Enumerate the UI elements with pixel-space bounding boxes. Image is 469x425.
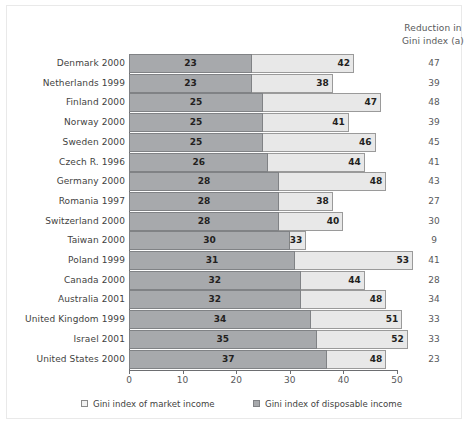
legend-label: Gini index of disposable income bbox=[265, 399, 402, 409]
category-label: Czech R. 1996 bbox=[13, 153, 125, 172]
bar-value-disposable: 25 bbox=[129, 93, 263, 112]
plot-area: 2342233825472541254626442848283828403033… bbox=[129, 54, 397, 370]
bar-value-disposable: 25 bbox=[129, 113, 263, 132]
bar-value-disposable: 28 bbox=[129, 192, 279, 211]
bar-value-disposable: 34 bbox=[129, 310, 311, 329]
category-label: Romania 1997 bbox=[13, 192, 125, 211]
category-label: Denmark 2000 bbox=[13, 54, 125, 73]
reduction-value: 41 bbox=[397, 153, 469, 172]
category-label: Norway 2000 bbox=[13, 113, 125, 132]
legend-swatch-light bbox=[81, 400, 88, 407]
chart-legend: Gini index of market incomeGini index of… bbox=[81, 397, 421, 413]
reduction-value: 41 bbox=[397, 251, 469, 270]
x-tick-mark bbox=[397, 370, 398, 374]
reduction-value: 45 bbox=[397, 133, 469, 152]
category-label: Finland 2000 bbox=[13, 93, 125, 112]
legend-item[interactable]: Gini index of market income bbox=[81, 397, 215, 411]
bar-value-market: 33 bbox=[290, 231, 306, 250]
bar-value-disposable: 32 bbox=[129, 271, 301, 290]
reduction-header-line-1: Reduction in bbox=[395, 22, 469, 35]
bar-value-market: 48 bbox=[327, 350, 386, 369]
category-label: United States 2000 bbox=[13, 350, 125, 369]
bar-value-disposable: 30 bbox=[129, 231, 290, 250]
category-label: Israel 2001 bbox=[13, 330, 125, 349]
bar-value-disposable: 23 bbox=[129, 74, 252, 93]
reduction-value: 48 bbox=[397, 93, 469, 112]
reduction-value: 34 bbox=[397, 290, 469, 309]
category-label: Canada 2000 bbox=[13, 271, 125, 290]
reduction-value: 23 bbox=[397, 350, 469, 369]
x-tick-label: 20 bbox=[224, 375, 248, 385]
reduction-value: 30 bbox=[397, 212, 469, 231]
legend-label: Gini index of market income bbox=[93, 399, 215, 409]
reduction-value: 28 bbox=[397, 271, 469, 290]
bar-value-disposable: 23 bbox=[129, 54, 252, 73]
bar-value-market: 40 bbox=[279, 212, 343, 231]
reduction-value: 39 bbox=[397, 74, 469, 93]
category-label: Switzerland 2000 bbox=[13, 212, 125, 231]
reduction-value: 33 bbox=[397, 310, 469, 329]
reduction-column-header: Reduction in Gini index (a) bbox=[395, 22, 469, 47]
x-tick-mark bbox=[129, 370, 130, 374]
legend-item[interactable]: Gini index of disposable income bbox=[253, 397, 402, 411]
bar-value-market: 53 bbox=[295, 251, 413, 270]
bar-value-market: 44 bbox=[268, 153, 364, 172]
x-tick-label: 10 bbox=[171, 375, 195, 385]
bar-value-market: 48 bbox=[279, 172, 386, 191]
category-label: Sweden 2000 bbox=[13, 133, 125, 152]
reduction-value: 47 bbox=[397, 54, 469, 73]
x-tick-label: 40 bbox=[331, 375, 355, 385]
x-tick-mark bbox=[290, 370, 291, 374]
x-tick-mark bbox=[236, 370, 237, 374]
reduction-header-line-2: Gini index (a) bbox=[395, 35, 469, 48]
reduction-value: 39 bbox=[397, 113, 469, 132]
bar-value-disposable: 26 bbox=[129, 153, 268, 172]
bar-value-market: 42 bbox=[252, 54, 354, 73]
x-tick-label: 30 bbox=[278, 375, 302, 385]
bar-value-disposable: 28 bbox=[129, 212, 279, 231]
bar-value-market: 46 bbox=[263, 133, 376, 152]
bar-value-disposable: 32 bbox=[129, 290, 301, 309]
x-tick-label: 50 bbox=[385, 375, 409, 385]
bar-value-market: 52 bbox=[317, 330, 408, 349]
category-label: United Kingdom 1999 bbox=[13, 310, 125, 329]
category-label-column: Denmark 2000Netherlands 1999Finland 2000… bbox=[11, 54, 125, 370]
category-label: Poland 1999 bbox=[13, 251, 125, 270]
x-tick-mark bbox=[183, 370, 184, 374]
chart-frame: Reduction in Gini index (a) Denmark 2000… bbox=[6, 5, 462, 419]
category-label: Taiwan 2000 bbox=[13, 231, 125, 250]
bar-value-disposable: 37 bbox=[129, 350, 327, 369]
reduction-value: 27 bbox=[397, 192, 469, 211]
bar-value-market: 44 bbox=[301, 271, 365, 290]
reduction-value: 33 bbox=[397, 330, 469, 349]
x-tick-label: 0 bbox=[117, 375, 141, 385]
reduction-value: 43 bbox=[397, 172, 469, 191]
bar-value-market: 41 bbox=[263, 113, 349, 132]
bar-value-market: 47 bbox=[263, 93, 381, 112]
bar-value-disposable: 28 bbox=[129, 172, 279, 191]
reduction-value-column: 4739483945414327309412834333323 bbox=[397, 54, 469, 370]
bar-value-market: 38 bbox=[252, 74, 332, 93]
bar-value-market: 48 bbox=[301, 290, 387, 309]
category-label: Australia 2001 bbox=[13, 290, 125, 309]
bar-value-market: 51 bbox=[311, 310, 402, 329]
x-tick-mark bbox=[343, 370, 344, 374]
bar-value-disposable: 25 bbox=[129, 133, 263, 152]
bar-value-disposable: 35 bbox=[129, 330, 317, 349]
reduction-value: 9 bbox=[397, 231, 469, 250]
legend-swatch-dark bbox=[253, 400, 260, 407]
x-axis-line bbox=[129, 370, 397, 371]
bar-value-market: 38 bbox=[279, 192, 333, 211]
category-label: Germany 2000 bbox=[13, 172, 125, 191]
bar-value-disposable: 31 bbox=[129, 251, 295, 270]
category-label: Netherlands 1999 bbox=[13, 74, 125, 93]
